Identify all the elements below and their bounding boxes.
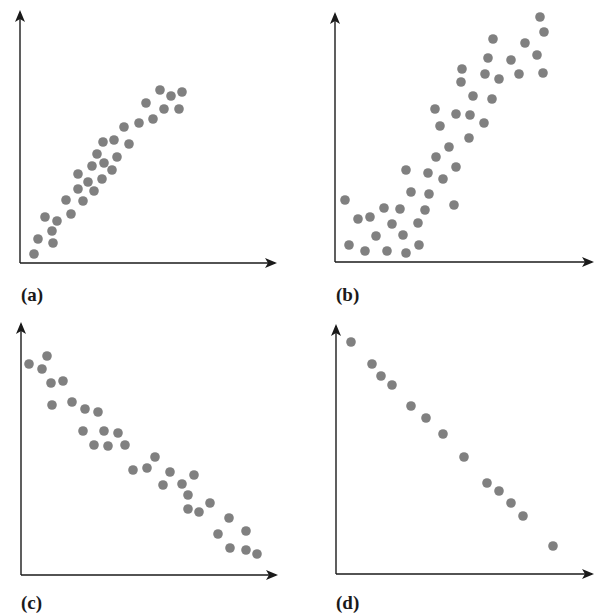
- data-point: [148, 114, 158, 124]
- data-point: [435, 121, 445, 131]
- data-point: [420, 205, 430, 215]
- data-point: [99, 426, 109, 436]
- data-point: [83, 177, 93, 187]
- panel-label-b: (b): [336, 284, 359, 306]
- data-point: [518, 511, 528, 521]
- data-point: [468, 91, 478, 101]
- data-point: [457, 64, 467, 74]
- data-point: [479, 118, 489, 128]
- data-point: [340, 195, 350, 205]
- scatter-panel-a: [20, 12, 275, 263]
- data-point: [456, 77, 466, 87]
- data-point: [538, 68, 548, 78]
- data-point: [480, 69, 490, 79]
- data-point: [141, 98, 151, 108]
- data-point: [413, 218, 423, 228]
- data-point: [92, 149, 102, 159]
- data-point: [382, 246, 392, 256]
- data-point: [93, 407, 103, 417]
- data-point: [142, 463, 152, 473]
- data-point: [67, 397, 77, 407]
- data-point: [158, 480, 168, 490]
- data-point: [78, 196, 88, 206]
- data-point: [506, 498, 516, 508]
- data-point: [174, 104, 184, 114]
- data-point: [120, 440, 130, 450]
- data-point: [87, 161, 97, 171]
- data-point: [124, 139, 134, 149]
- data-point: [535, 12, 545, 22]
- data-point: [89, 440, 99, 450]
- data-point: [430, 104, 440, 114]
- data-point: [159, 104, 169, 114]
- data-point: [97, 174, 107, 184]
- data-point: [42, 351, 52, 361]
- data-point: [29, 249, 39, 259]
- data-point: [360, 246, 370, 256]
- data-point: [73, 169, 83, 179]
- data-point: [183, 504, 193, 514]
- data-point: [150, 452, 160, 462]
- data-point: [387, 380, 397, 390]
- data-point: [241, 545, 251, 555]
- data-point: [47, 400, 57, 410]
- data-point: [98, 137, 108, 147]
- data-point: [61, 195, 71, 205]
- scatter-panel-b: [335, 12, 592, 262]
- data-point: [103, 441, 113, 451]
- data-point: [482, 478, 492, 488]
- data-point: [99, 158, 109, 168]
- data-point: [40, 212, 50, 222]
- data-point: [395, 204, 405, 214]
- data-point: [379, 203, 389, 213]
- data-point: [483, 53, 493, 63]
- data-point: [424, 189, 434, 199]
- data-point: [494, 74, 504, 84]
- scatter-panel-d: [336, 326, 592, 574]
- data-point: [421, 413, 431, 423]
- data-point: [401, 165, 411, 175]
- data-point: [367, 359, 377, 369]
- panel-label-a: (a): [21, 284, 43, 306]
- data-point: [365, 212, 375, 222]
- data-point: [66, 209, 76, 219]
- data-point: [423, 168, 433, 178]
- data-point: [24, 359, 34, 369]
- panel-label-c: (c): [21, 592, 42, 613]
- data-point: [155, 85, 165, 95]
- data-point: [205, 498, 215, 508]
- data-point: [252, 549, 262, 559]
- data-point: [465, 110, 475, 120]
- data-point: [47, 226, 57, 236]
- data-point: [177, 87, 187, 97]
- data-point: [532, 50, 542, 60]
- data-point: [376, 371, 386, 381]
- data-point: [444, 142, 454, 152]
- data-point: [488, 34, 498, 44]
- data-point: [112, 152, 122, 162]
- data-point: [406, 187, 416, 197]
- data-point: [119, 122, 129, 132]
- data-point: [398, 230, 408, 240]
- data-point: [89, 186, 99, 196]
- data-point: [539, 27, 549, 37]
- data-point: [225, 543, 235, 553]
- data-point: [52, 216, 62, 226]
- data-point: [451, 109, 461, 119]
- data-point: [353, 214, 363, 224]
- data-point: [414, 240, 424, 250]
- data-point: [346, 337, 356, 347]
- data-point: [520, 38, 530, 48]
- data-point: [46, 378, 56, 388]
- data-point: [387, 219, 397, 229]
- scatter-panel-c: [21, 324, 276, 575]
- data-point: [406, 401, 416, 411]
- data-point: [548, 541, 558, 551]
- data-point: [451, 162, 461, 172]
- data-point: [80, 404, 90, 414]
- data-point: [183, 490, 193, 500]
- data-point: [177, 479, 187, 489]
- data-point: [58, 376, 68, 386]
- data-point: [438, 429, 448, 439]
- data-point: [459, 452, 469, 462]
